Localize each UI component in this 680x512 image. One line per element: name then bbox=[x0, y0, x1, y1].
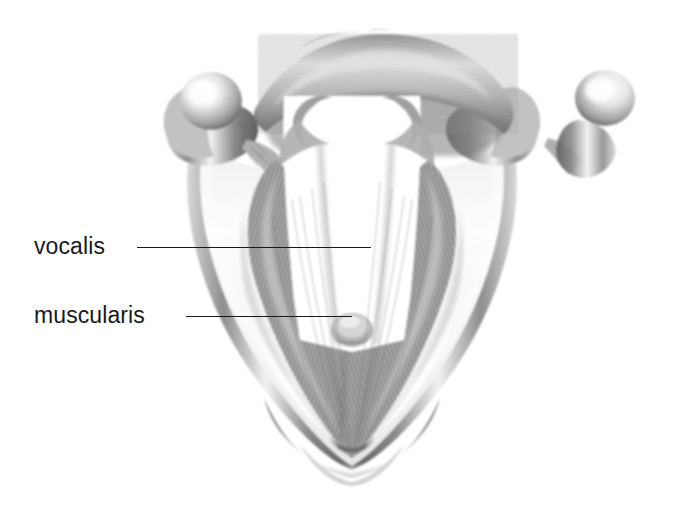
label-muscularis: muscularis bbox=[34, 304, 145, 327]
label-vocalis: vocalis bbox=[34, 235, 105, 258]
leader-line-muscularis bbox=[186, 316, 352, 317]
leader-line-vocalis bbox=[137, 247, 371, 248]
